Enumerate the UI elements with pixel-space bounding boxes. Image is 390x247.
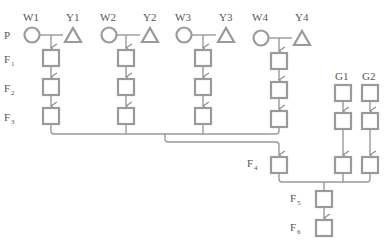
parent-column-2: W2Y2	[100, 11, 158, 124]
svg-text:3: 3	[11, 118, 15, 126]
female-label: W2	[100, 11, 116, 23]
row-label-f6: F 6	[290, 221, 301, 236]
female-label: W1	[23, 11, 39, 23]
f2-square	[118, 79, 134, 95]
f3-square	[43, 108, 59, 124]
male-label: Y1	[66, 11, 79, 23]
g1-f4-square	[335, 157, 351, 173]
g-line-label: G2	[362, 70, 375, 82]
male-triangle-icon	[142, 28, 158, 42]
f1-square	[195, 50, 211, 66]
male-triangle-icon	[294, 31, 310, 45]
g-line-column-2: G2	[362, 70, 378, 155]
svg-text:5: 5	[297, 199, 301, 207]
female-label: W4	[252, 11, 268, 23]
row-label-f2: F 2	[4, 82, 15, 97]
svg-text:F: F	[4, 53, 10, 65]
f4-square	[271, 157, 287, 173]
male-triangle-icon	[65, 28, 81, 42]
parent-column-4: W4Y4	[252, 11, 310, 127]
f4-bus-line	[279, 173, 370, 182]
row-label-f1: F 1	[4, 53, 15, 68]
male-label: Y4	[295, 11, 309, 23]
row-label-p: P	[4, 29, 10, 41]
row-label-f5: F 5	[290, 192, 301, 207]
svg-text:F: F	[290, 221, 296, 233]
f5-square	[316, 191, 332, 207]
svg-text:6: 6	[297, 228, 301, 236]
parent-column-3: W3Y3	[175, 11, 234, 124]
f4-feed-line	[165, 134, 279, 155]
female-circle-icon	[254, 31, 269, 46]
female-circle-icon	[177, 28, 192, 43]
male-triangle-icon	[218, 28, 234, 42]
female-circle-icon	[102, 28, 117, 43]
g-line-column-1: G1	[335, 70, 351, 155]
f1-square	[271, 53, 287, 69]
female-label: W3	[175, 11, 191, 23]
svg-text:F: F	[247, 157, 253, 169]
svg-text:4: 4	[254, 164, 258, 172]
svg-text:F: F	[4, 82, 10, 94]
g2-f4-square	[362, 157, 378, 173]
svg-text:F: F	[290, 192, 296, 204]
male-label: Y2	[143, 11, 156, 23]
g-square	[335, 85, 351, 101]
f3-square	[271, 111, 287, 127]
f2-square	[271, 82, 287, 98]
f2-square	[43, 79, 59, 95]
row-label-f4: F 4	[247, 157, 258, 172]
parent-column-1: W1Y1	[23, 11, 81, 124]
svg-text:F: F	[4, 111, 10, 123]
f3-square	[118, 108, 134, 124]
g-square	[335, 113, 351, 129]
female-circle-icon	[25, 28, 40, 43]
male-label: Y3	[219, 11, 233, 23]
lower-generations	[51, 124, 378, 236]
svg-text:1: 1	[11, 60, 15, 68]
f2-square	[195, 79, 211, 95]
f3-square	[195, 108, 211, 124]
f3-bus-line	[51, 124, 279, 134]
row-label-f3: F 3	[4, 111, 15, 126]
f6-square	[316, 220, 332, 236]
svg-text:2: 2	[11, 89, 15, 97]
f1-square	[118, 50, 134, 66]
f1-square	[43, 50, 59, 66]
g-square	[362, 113, 378, 129]
g-line-label: G1	[335, 70, 348, 82]
g-square	[362, 85, 378, 101]
breeding-pedigree-diagram: P F 1 F 2 F 3 F 4 F 5 F 6 W1Y1W2Y2W3Y3W4…	[0, 0, 390, 247]
